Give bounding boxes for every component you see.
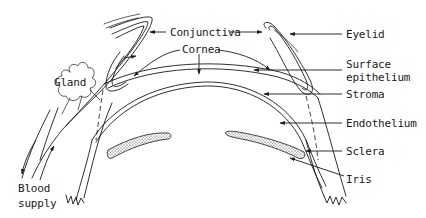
label-surface-epithelium-1: Surface [346,58,391,71]
right-sclera [306,96,346,205]
label-sclera: Sclera [346,145,385,158]
label-blood-supply-2: supply [18,197,57,210]
label-conjunctiva: Conjunctiva [170,26,241,39]
eye-anatomy-diagram: Conjunctiva Cornea Eyelid Surface epithe… [0,0,426,218]
iris-right [226,131,305,158]
labels: Conjunctiva Cornea Eyelid Surface epithe… [18,26,417,210]
label-cornea: Cornea [182,43,221,56]
label-endothelium: Endothelium [346,117,417,130]
iris-left [107,133,171,159]
label-eyelid: Eyelid [346,28,385,41]
cornea-surface-epithelium [104,64,320,98]
label-surface-epithelium-2: epithelium [346,71,411,84]
label-stroma: Stroma [346,88,385,101]
left-sclera [66,90,112,205]
right-eyelid [264,22,313,94]
label-gland: Gland [54,76,86,89]
left-eyelid [22,14,152,178]
label-blood-supply-1: Blood [18,182,50,195]
label-iris: Iris [346,173,372,186]
blood-supply-arrows [22,140,54,180]
cornea-endothelium [92,82,326,188]
leader-lines [124,32,344,176]
